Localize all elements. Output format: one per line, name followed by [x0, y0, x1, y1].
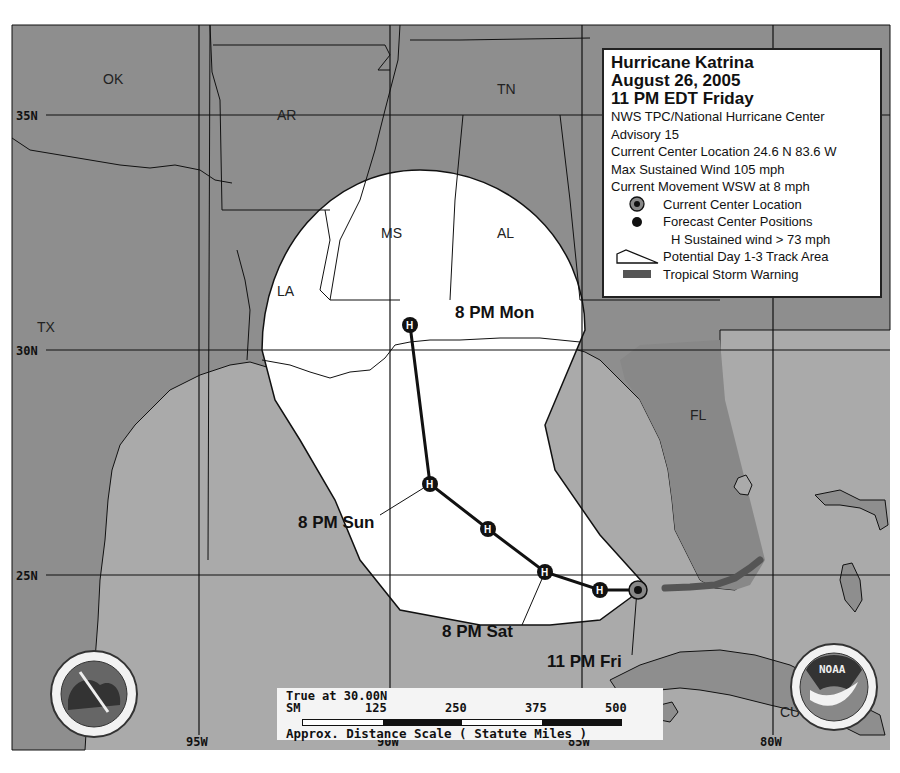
legend-item-forecast-center: Forecast Center Positions [611, 213, 873, 231]
storm-name: Hurricane Katrina [611, 54, 873, 72]
state-label-ms: MS [381, 225, 402, 241]
lon-label-95w: 95W [186, 735, 208, 749]
state-label-tn: TN [497, 81, 516, 97]
state-label-la: LA [277, 283, 295, 299]
current-movement: Current Movement WSW at 8 mph [611, 178, 873, 196]
current-location: Current Center Location 24.6 N 83.6 W [611, 143, 873, 161]
svg-text:H: H [484, 524, 491, 535]
state-label-ok: OK [103, 71, 124, 87]
label-8pm-mon: 8 PM Mon [455, 303, 534, 322]
label-11pm-fri: 11 PM Fri [547, 652, 622, 671]
svg-text:H: H [406, 320, 413, 331]
state-label-fl: FL [690, 407, 707, 423]
forecast-position-sat: H [537, 564, 553, 580]
max-wind: Max Sustained Wind 105 mph [611, 161, 873, 179]
scale-tick-500: 500 [605, 701, 627, 715]
scale-bar [302, 719, 622, 726]
forecast-position-sun-am: H [480, 521, 496, 537]
lat-label-30n: 30N [16, 344, 38, 358]
nws-logo [51, 651, 137, 737]
forecast-position-sat-am: H [592, 582, 608, 598]
tropical-storm-warning-icon [611, 269, 663, 279]
current-center-icon [611, 196, 663, 212]
forecast-position-sun: H [422, 476, 438, 492]
advisory-date: August 26, 2005 [611, 72, 873, 90]
legend-box: Hurricane Katrina August 26, 2005 11 PM … [602, 48, 882, 298]
current-center-location [629, 581, 647, 599]
lat-label-25n: 25N [16, 569, 38, 583]
legend-item-h-symbol: H Sustained wind > 73 mph [611, 231, 873, 249]
svg-text:H: H [596, 585, 603, 596]
legend-item-current-center: Current Center Location [611, 196, 873, 214]
state-label-ar: AR [277, 107, 296, 123]
scale-tick-250: 250 [445, 701, 467, 715]
scale-tick-375: 375 [525, 701, 547, 715]
scale-caption: Approx. Distance Scale ( Statute Miles ) [286, 726, 587, 741]
distance-scale: True at 30.00N SM 125 250 375 500 Approx… [277, 688, 663, 740]
track-area-icon [611, 249, 663, 265]
legend-item-track-area: Potential Day 1-3 Track Area [611, 248, 873, 266]
svg-text:H: H [541, 567, 548, 578]
forecast-position-mon: H [402, 317, 418, 333]
svg-text:NOAA: NOAA [819, 663, 846, 676]
noaa-logo: NOAA [791, 644, 877, 730]
lon-label-80w: 80W [760, 735, 782, 749]
legend-item-tropical-storm-warning: Tropical Storm Warning [611, 266, 873, 284]
lat-label-35n: 35N [16, 109, 38, 123]
advisory-time: 11 PM EDT Friday [611, 90, 873, 108]
label-8pm-sat: 8 PM Sat [442, 622, 513, 641]
label-8pm-sun: 8 PM Sun [298, 513, 375, 532]
scale-unit: SM [286, 701, 300, 715]
state-label-tx: TX [37, 319, 56, 335]
state-label-al: AL [497, 225, 514, 241]
advisory-number: Advisory 15 [611, 126, 873, 144]
scale-tick-125: 125 [365, 701, 387, 715]
agency-label: NWS TPC/National Hurricane Center [611, 108, 873, 126]
forecast-center-icon [611, 216, 663, 228]
svg-text:H: H [426, 479, 433, 490]
